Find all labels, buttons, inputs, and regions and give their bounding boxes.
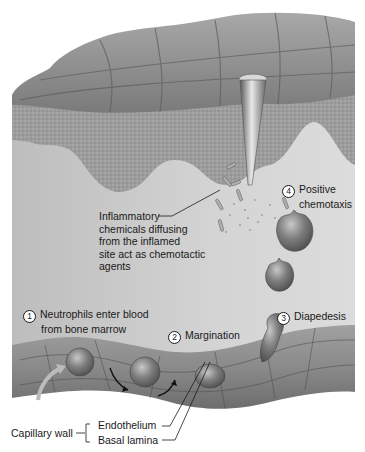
- label-capillary-wall: Capillary wall: [11, 427, 73, 440]
- label-inflammatory-chemicals: Inflammatory chemicals diffusing from th…: [99, 210, 205, 273]
- neutrophil-in-blood: [66, 348, 94, 376]
- skin-surface: [12, 13, 355, 113]
- bracket: [86, 424, 90, 442]
- step-number-3: 3: [277, 312, 290, 325]
- label-endothelium: Endothelium: [98, 419, 156, 432]
- label-step-1: 1Neutrophils enter blood from bone marro…: [23, 308, 149, 336]
- step-number-1: 1: [23, 310, 36, 323]
- step-number-4: 4: [282, 185, 295, 198]
- label-step-3: 3Diapedesis: [277, 310, 346, 325]
- label-basal-lamina: Basal lamina: [98, 434, 158, 447]
- label-step-2: 2Margination: [168, 329, 240, 344]
- step-number-2: 2: [168, 331, 181, 344]
- neutrophil-margination: [195, 364, 225, 388]
- neutrophil-rolling: [130, 357, 160, 387]
- label-step-4: 4Positive chemotaxis: [282, 183, 352, 211]
